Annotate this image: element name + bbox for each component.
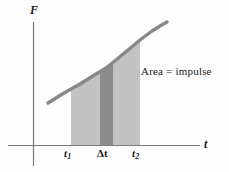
figure-canvas (0, 0, 229, 172)
y-axis-label: F (30, 4, 38, 16)
tick-label-delta-t: Δt (97, 148, 108, 159)
area-equals-impulse-annotation: Area = impulse (141, 66, 212, 77)
tick-sub-t2: 2 (135, 152, 139, 161)
tick-base-delta-t: Δt (97, 147, 108, 159)
tick-label-t1: t1 (64, 148, 71, 159)
tick-label-t2: t2 (132, 148, 139, 159)
tick-sub-t1: 1 (67, 152, 71, 161)
impulse-figure: F t Area = impulse t1 Δt t2 (0, 0, 229, 172)
x-axis-label: t (204, 138, 207, 150)
delta-t-strip-region (100, 0, 113, 145)
